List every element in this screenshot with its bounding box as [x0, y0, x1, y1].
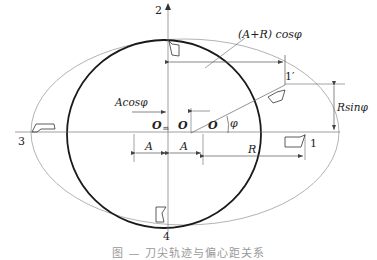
label-a-right: A — [179, 140, 188, 153]
label-point-4: 4 — [163, 230, 170, 243]
radius-line — [191, 85, 285, 133]
tool-icon-2 — [169, 41, 179, 56]
label-r: R — [247, 143, 256, 156]
label-a-plus-r-cos: (A+R) cosφ — [238, 28, 302, 41]
label-point-2: 2 — [155, 4, 162, 17]
axis-arrow-icon — [165, 3, 171, 10]
label-a-left: A — [144, 140, 153, 153]
label-center-om: O — [152, 119, 162, 132]
workpiece-circle — [67, 40, 261, 228]
label-point-1: 1 — [310, 137, 317, 150]
label-center-om-sub: m — [163, 124, 169, 131]
angle-arc — [227, 116, 229, 133]
tool-icon-1prime — [268, 90, 285, 103]
tool-icon-4 — [156, 207, 166, 222]
label-point-1prime: 1′ — [285, 70, 295, 83]
label-a-cos: Acosφ — [114, 96, 148, 108]
label-r-sin: Rsinφ — [336, 101, 368, 113]
label-angle-phi: φ — [230, 117, 238, 130]
label-center-o: O — [178, 119, 188, 132]
label-center-o-prime: O — [208, 119, 218, 132]
tool-icon-3 — [32, 124, 55, 132]
figure-caption: 图 — 刀尖轨迹与偏心距关系 — [0, 244, 377, 260]
tool-icon-1 — [285, 135, 305, 147]
label-point-3: 3 — [18, 135, 25, 148]
